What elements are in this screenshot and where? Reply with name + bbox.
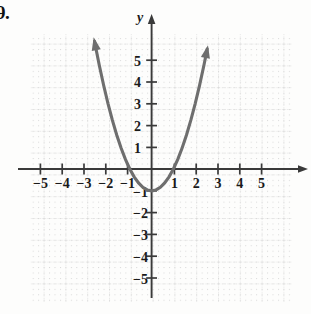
x-tick-label: 3 [215,176,222,191]
x-tick-label: −4 [55,176,70,191]
x-tick-label: 2 [193,176,200,191]
x-tick-label: −5 [33,176,48,191]
exercise-number: 9. [0,2,9,24]
x-tick-label: 5 [258,176,265,191]
x-tick-label: −2 [98,176,113,191]
y-tick-label: −2 [133,206,148,221]
y-tick-label: −3 [133,228,148,243]
x-axis-arrow-icon [298,165,308,173]
y-tick-label: 5 [134,54,141,69]
graph-figure: 9. [0,0,311,314]
coordinate-plane: y −5 −4 −3 −2 −1 1 2 3 4 5 5 4 3 2 1 −1 … [0,0,311,314]
grid [30,34,292,302]
y-tick-label: −4 [133,250,148,265]
x-tick-label: 4 [236,176,243,191]
y-tick-label: −5 [133,272,148,287]
x-tick-label: 1 [171,176,178,191]
y-tick-label: 1 [134,141,141,156]
y-tick-label: 3 [134,97,141,112]
x-tick-label: −3 [77,176,92,191]
y-tick-label: 2 [134,119,141,134]
y-axis-arrow-icon [148,14,156,24]
y-axis-label: y [135,10,144,25]
y-tick-label: 4 [134,75,141,90]
